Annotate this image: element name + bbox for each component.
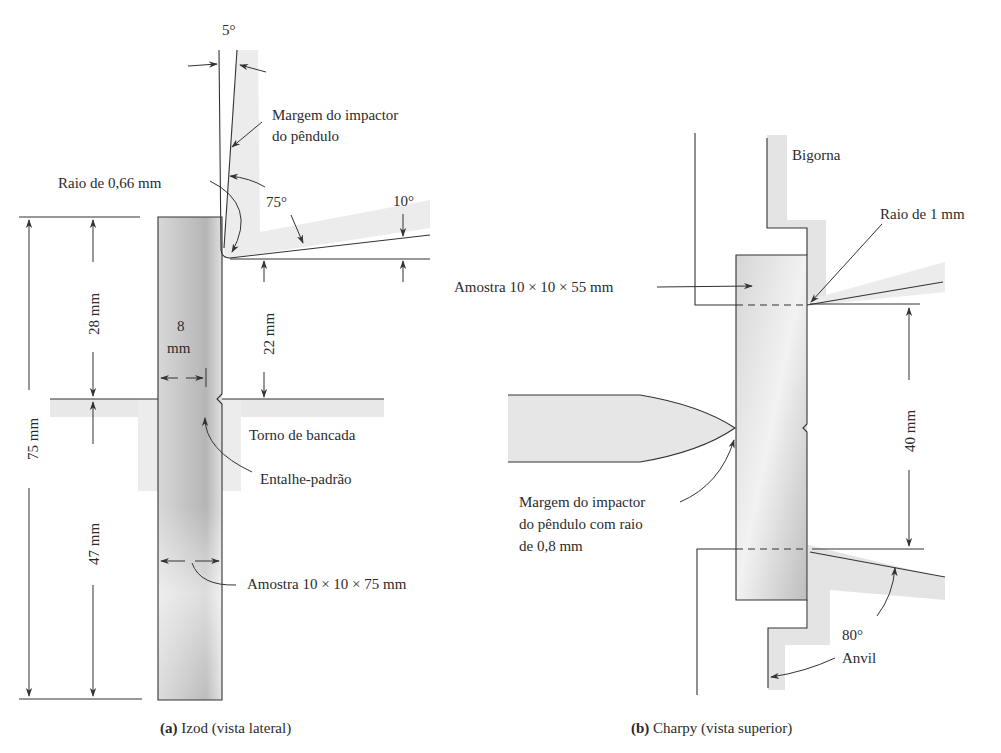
radius-066-label: Raio de 0,66 mm: [58, 175, 162, 191]
dim-75-label: 75 mm: [25, 418, 41, 460]
impact-test-diagram: 5° Margem do impactor do pêndulo Raio de…: [0, 0, 1001, 753]
vise-label: Torno de bancada: [249, 427, 356, 443]
anvil-top-wedge-shade: [808, 262, 945, 306]
izod-impactor-shade: [224, 50, 430, 258]
angle-5-label: 5°: [222, 22, 236, 38]
angle-80-label: 80°: [842, 627, 863, 643]
charpy-specimen-label: Amostra 10 × 10 × 55 mm: [454, 279, 614, 295]
anvil-bottom-left-line: [697, 549, 736, 695]
impactor-edge-label-1: Margem do impactor: [272, 107, 398, 123]
charpy-specimen: [736, 255, 807, 600]
vise-right-shade: [222, 399, 384, 417]
impactor-edge-label-2: do pêndulo: [272, 128, 339, 144]
dim-8-label-2: mm: [167, 340, 191, 356]
dim-22-label: 22 mm: [261, 313, 277, 355]
angle-10-label: 10°: [393, 193, 414, 209]
dim-47-label: 47 mm: [86, 523, 102, 565]
charpy-caption: (b) Charpy (vista superior): [631, 720, 792, 737]
charpy-impactor-shade: [508, 395, 735, 462]
izod-specimen-label: Amostra 10 × 10 × 75 mm: [247, 576, 407, 592]
charpy-impactor-label-1: Margem do impactor: [519, 494, 645, 510]
dim-40-label: 40 mm: [902, 410, 918, 452]
izod-caption: (a) Izod (vista lateral): [160, 720, 291, 737]
anvil-top-left-line: [695, 133, 736, 305]
anvil-top-label: Bigorna: [792, 147, 841, 163]
radius-1-label: Raio de 1 mm: [880, 206, 965, 222]
dim-8-label-1: 8: [177, 318, 185, 334]
izod-panel: 5° Margem do impactor do pêndulo Raio de…: [19, 22, 430, 737]
charpy-panel: 40 mm Bigorna Raio de 1 mm Amostra 10 × …: [454, 133, 965, 737]
charpy-impactor-label-3: de 0,8 mm: [519, 538, 583, 554]
charpy-impactor-label-2: do pêndulo com raio: [519, 516, 643, 532]
angle-5-arrow-left: [188, 64, 217, 66]
anvil-bottom-label: Anvil: [842, 650, 876, 666]
angle-75-label: 75°: [266, 194, 287, 210]
dim-28-label: 28 mm: [86, 293, 102, 335]
notch-label: Entalhe-padrão: [260, 471, 352, 487]
